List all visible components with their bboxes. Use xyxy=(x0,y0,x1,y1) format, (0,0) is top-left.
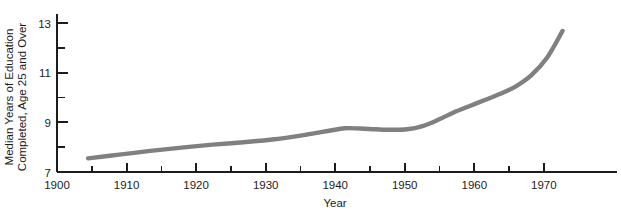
x-tick-label-1960: 1960 xyxy=(462,179,488,191)
y-tick-label-11: 11 xyxy=(39,67,51,79)
x-tick-label-1920: 1920 xyxy=(183,179,209,191)
y-axis-ticks: 13 11 9 7 xyxy=(38,18,68,179)
y-axis-title: Median Years of Education Completed, Age… xyxy=(3,23,28,171)
x-tick-label-1940: 1940 xyxy=(322,179,348,191)
x-axis-title: Year xyxy=(323,197,346,209)
chart-container: Median Years of Education Completed, Age… xyxy=(0,0,621,213)
x-tick-label-1930: 1930 xyxy=(253,179,279,191)
x-axis-ticks: 1910 1920 1930 1940 1950 1960 1970 1900 xyxy=(44,163,556,191)
data-series-line xyxy=(88,31,562,158)
x-tick-label-1970: 1970 xyxy=(531,179,557,191)
y-tick-label-7: 7 xyxy=(45,167,51,179)
y-tick-label-13: 13 xyxy=(38,18,51,30)
x-tick-label-1900: 1900 xyxy=(44,179,70,191)
x-tick-label-1950: 1950 xyxy=(392,179,418,191)
x-tick-label-1910: 1910 xyxy=(114,179,140,191)
y-axis-title-line-2: Completed, Age 25 and Over xyxy=(16,23,28,171)
y-axis-title-line-1: Median Years of Education xyxy=(3,29,15,166)
education-line-chart: Median Years of Education Completed, Age… xyxy=(0,0,621,213)
y-tick-label-9: 9 xyxy=(45,117,51,129)
